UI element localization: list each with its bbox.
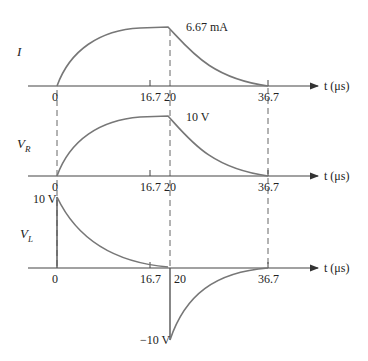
time-axis-label: t (μs) [324, 169, 349, 183]
tick-label-20: 20 [164, 180, 176, 194]
vl-top-label: 10 V [33, 192, 57, 206]
resistor-voltage-panel: VR 10 V 0 16.7 20 36.7 t (μs) [17, 110, 349, 194]
current-panel: I 6.67 mA 0 16.7 20 36.7 t (μs) [16, 20, 349, 104]
vr-peak-label: 10 V [186, 110, 210, 124]
vl-bottom-label: −10 V [140, 333, 171, 347]
time-axis-label: t (μs) [324, 79, 349, 93]
tick-label-36-7: 36.7 [258, 90, 279, 104]
tick-label-36-7: 36.7 [258, 272, 279, 286]
tick-label-0: 0 [52, 90, 58, 104]
rl-response-figure: I 6.67 mA 0 16.7 20 36.7 t (μs) VR 10 V … [0, 0, 368, 361]
inductor-voltage-panel: VL 10 V −10 V 0 16.7 20 36.7 t (μs) [20, 192, 349, 347]
current-axis-label: I [16, 44, 22, 59]
current-curve [57, 27, 268, 86]
tick-label-16-7: 16.7 [140, 180, 161, 194]
vl-decay-curve-positive [57, 197, 168, 267]
vr-curve [57, 116, 268, 176]
tick-label-20: 20 [174, 272, 186, 286]
current-peak-label: 6.67 mA [186, 20, 228, 34]
tick-label-36-7: 36.7 [258, 180, 279, 194]
vr-axis-label: VR [17, 136, 31, 154]
tick-label-16-7: 16.7 [140, 272, 161, 286]
vl-axis-label: VL [20, 226, 33, 244]
tick-label-20: 20 [164, 90, 176, 104]
tick-label-16-7: 16.7 [140, 90, 161, 104]
time-axis-label: t (μs) [324, 261, 349, 275]
tick-label-0: 0 [52, 272, 58, 286]
